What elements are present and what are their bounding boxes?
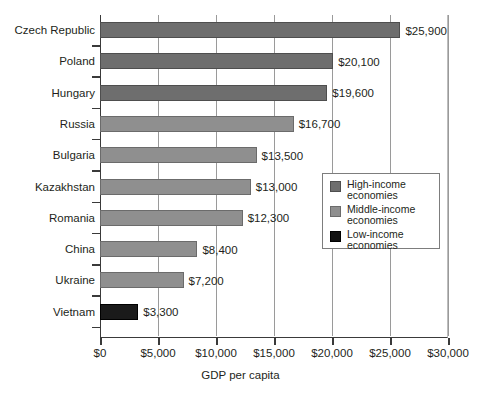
y-axis-label: Romania: [0, 212, 95, 224]
legend-label: Low-incomeeconomies: [347, 229, 404, 251]
bar-value-label: $20,100: [338, 56, 380, 68]
bar: [100, 147, 257, 163]
bar-value-label: $7,200: [189, 275, 224, 287]
legend-swatch-high-icon: [330, 181, 341, 192]
legend-label-line2: economies: [347, 190, 406, 201]
y-axis-tick: [92, 233, 100, 235]
bar-value-label: $12,300: [248, 212, 290, 224]
bar: [100, 116, 294, 132]
bar: [100, 85, 327, 101]
bar: [100, 272, 184, 288]
y-axis-tick: [92, 139, 100, 141]
x-axis-tick: [158, 338, 160, 345]
x-axis-title: GDP per capita: [0, 369, 481, 381]
y-axis-tick: [92, 170, 100, 172]
y-axis-label: Vietnam: [0, 306, 95, 318]
bar: [100, 241, 197, 257]
bar-value-label: $13,500: [262, 150, 304, 162]
y-axis-label: Bulgaria: [0, 149, 95, 161]
y-axis-label: Czech Republic: [0, 24, 95, 36]
legend-swatch-low-icon: [330, 231, 341, 242]
bar-value-label: $3,300: [143, 306, 178, 318]
bar-value-label: $8,400: [202, 244, 237, 256]
y-axis-tick: [92, 108, 100, 110]
gridline: [448, 15, 449, 336]
y-axis-label: Ukraine: [0, 274, 95, 286]
bar-value-label: $13,000: [256, 181, 298, 193]
y-axis-label: Russia: [0, 118, 95, 130]
bar-value-label: $16,700: [299, 118, 341, 130]
bar: [100, 210, 243, 226]
legend-label-line2: economies: [347, 240, 404, 251]
x-axis-tick-label: $30,000: [408, 347, 481, 360]
legend: High-incomeeconomiesMiddle-incomeeconomi…: [322, 173, 440, 249]
x-axis-tick: [216, 338, 218, 345]
y-axis-label: Hungary: [0, 87, 95, 99]
y-axis-tick: [92, 202, 100, 204]
bar: [100, 179, 251, 195]
bar: [100, 22, 400, 38]
legend-label-line2: economies: [347, 215, 415, 226]
y-axis-label: Poland: [0, 55, 95, 67]
legend-item: Low-incomeeconomies: [330, 229, 439, 251]
y-axis-label: China: [0, 243, 95, 255]
x-axis-tick: [100, 338, 102, 345]
legend-label: High-incomeeconomies: [347, 179, 406, 201]
x-axis-tick: [390, 338, 392, 345]
legend-label: Middle-incomeeconomies: [347, 204, 415, 226]
x-axis-tick: [332, 338, 334, 345]
bar-chart: Czech RepublicPolandHungaryRussiaBulgari…: [0, 0, 481, 393]
x-axis-tick: [274, 338, 276, 345]
y-axis-tick: [92, 295, 100, 297]
legend-swatch-middle-icon: [330, 206, 341, 217]
bar-value-label: $19,600: [332, 87, 374, 99]
bar: [100, 304, 138, 320]
y-axis-tick: [92, 76, 100, 78]
legend-item: Middle-incomeeconomies: [330, 204, 439, 226]
y-axis-tick: [92, 264, 100, 266]
y-axis-tick: [92, 45, 100, 47]
legend-item: High-incomeeconomies: [330, 179, 439, 201]
y-axis-tick: [92, 327, 100, 329]
y-axis-label: Kazakhstan: [0, 181, 95, 193]
bar: [100, 53, 333, 69]
x-axis-tick: [448, 338, 450, 345]
bar-value-label: $25,900: [405, 25, 447, 37]
